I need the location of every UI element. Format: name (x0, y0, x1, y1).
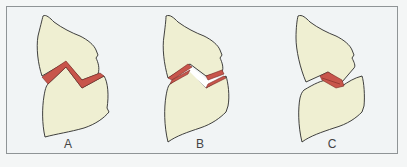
panel-a (37, 15, 109, 137)
panel-label-c: C (322, 137, 342, 151)
panel-c (296, 15, 364, 142)
lower-bone-c (299, 76, 365, 142)
panel-b (163, 15, 229, 142)
panel-label-a: A (58, 137, 78, 151)
upper-bone-c (296, 15, 355, 82)
panel-label-b: B (190, 137, 210, 151)
